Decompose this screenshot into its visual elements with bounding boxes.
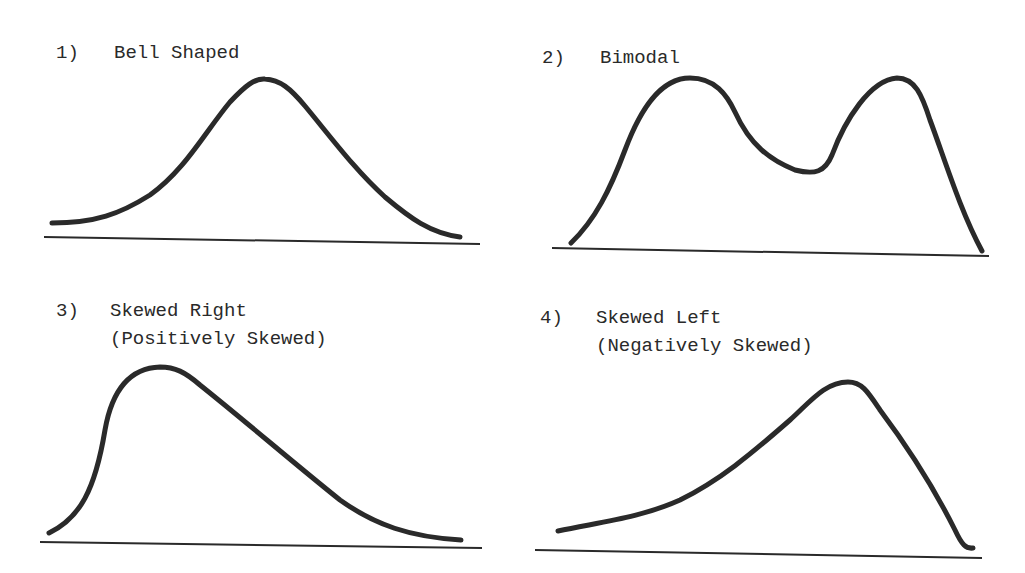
panel-4-label: 4) Skewed Left (Negatively Skewed)	[540, 305, 563, 413]
panel-number: 2)	[542, 45, 565, 72]
panel-number: 3)	[56, 298, 79, 325]
baseline	[44, 237, 480, 244]
panel-3-label: 3) Skewed Right (Positively Skewed)	[56, 298, 79, 406]
skewed-left-curve	[558, 382, 973, 548]
panel-1-label: 1) Bell Shaped	[56, 40, 79, 121]
panel-title: Bimodal	[600, 45, 680, 72]
panel-subtitle: (Negatively Skewed)	[596, 333, 813, 360]
baseline	[535, 550, 982, 558]
panel-skewed-left	[535, 382, 982, 558]
baseline	[40, 542, 482, 548]
panel-title: Skewed Left	[596, 305, 721, 332]
panel-skewed-right	[40, 367, 482, 548]
distribution-shapes-diagram	[0, 0, 1025, 573]
bell-curve	[52, 79, 460, 237]
panel-number: 4)	[540, 305, 563, 332]
panel-number: 1)	[56, 40, 79, 67]
panel-bimodal	[552, 78, 989, 256]
skewed-right-curve	[49, 367, 461, 540]
bimodal-curve	[571, 78, 982, 251]
baseline	[552, 248, 989, 256]
panel-title: Skewed Right	[110, 298, 247, 325]
panel-subtitle: (Positively Skewed)	[110, 326, 327, 353]
panel-bell-shaped	[44, 79, 480, 244]
panel-title: Bell Shaped	[114, 40, 239, 67]
panel-2-label: 2) Bimodal	[542, 45, 565, 126]
